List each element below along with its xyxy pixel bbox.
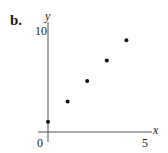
data-point [124,38,128,42]
data-point [85,79,89,83]
data-points [46,38,128,124]
data-point [66,99,70,103]
data-point [46,120,50,124]
data-point [105,59,109,63]
scatter-plot [0,0,168,153]
